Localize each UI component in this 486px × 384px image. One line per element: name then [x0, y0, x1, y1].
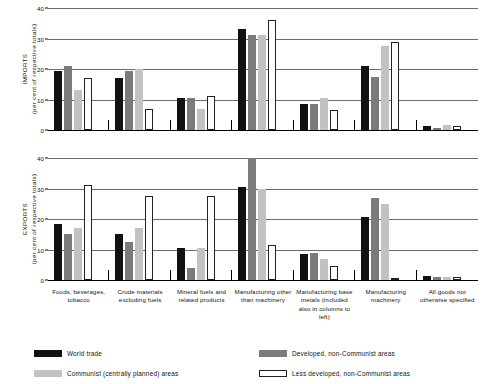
- imports-bar-groups: [48, 8, 478, 130]
- exports-bar: [258, 189, 266, 281]
- exports-y-tick-30: 30: [22, 185, 44, 192]
- imports-bar: [84, 78, 92, 130]
- exports-bar-group: [417, 158, 478, 280]
- legend-label: Less developed, non-Communist areas: [292, 370, 410, 377]
- imports-bar: [310, 104, 318, 130]
- imports-bar: [300, 104, 308, 130]
- exports-bar: [187, 268, 195, 280]
- imports-bar: [197, 109, 205, 130]
- exports-bar-group: [48, 158, 109, 280]
- imports-bar-group: [355, 8, 416, 130]
- x-axis-label-4: Manufacturing base metals (included also…: [294, 288, 355, 322]
- imports-bar-group: [171, 8, 232, 130]
- legend-swatch-icon: [259, 370, 287, 377]
- exports-bar: [330, 266, 338, 280]
- exports-bar: [115, 234, 123, 280]
- imports-bar: [177, 98, 185, 130]
- exports-bar: [310, 253, 318, 280]
- exports-bar: [238, 187, 246, 280]
- imports-bar-group: [417, 8, 478, 130]
- imports-bar: [361, 66, 369, 130]
- exports-bar: [453, 277, 461, 280]
- imports-bar: [381, 46, 389, 130]
- exports-bar: [197, 248, 205, 280]
- exports-plot-area: [48, 158, 478, 281]
- exports-bar: [391, 278, 399, 280]
- exports-bar: [54, 224, 62, 280]
- legend-swatch-icon: [34, 350, 62, 357]
- imports-bar: [64, 66, 72, 130]
- imports-bar: [453, 126, 461, 130]
- legend-label: Communist (centrally planned) areas: [67, 370, 178, 377]
- legend-item: Less developed, non-Communist areas: [259, 370, 474, 377]
- imports-y-tick-10: 10: [22, 96, 44, 103]
- exports-y-tick-20: 20: [22, 216, 44, 223]
- legend-item: Developed, non-Communist areas: [259, 350, 474, 357]
- x-axis-label-1: Crude materials excluding fuels: [109, 288, 170, 322]
- imports-y-tick-0: 0: [22, 127, 44, 134]
- imports-bar: [320, 98, 328, 130]
- x-axis-label-6: All goods not otherwise specified: [417, 288, 478, 322]
- exports-bar-group: [294, 158, 355, 280]
- x-axis-label-2: Mineral fuels and related products: [171, 288, 232, 322]
- exports-bar-group: [171, 158, 232, 280]
- exports-bar: [300, 254, 308, 280]
- imports-bar: [115, 78, 123, 130]
- x-axis-label-3: Manufacturing other than machinery: [232, 288, 293, 322]
- exports-bar: [64, 234, 72, 280]
- chart-legend: World tradeDeveloped, non-Communist area…: [34, 350, 474, 377]
- exports-bar-groups: [48, 158, 478, 280]
- imports-bar: [423, 126, 431, 130]
- legend-label: Developed, non-Communist areas: [292, 350, 395, 357]
- imports-bar: [268, 20, 276, 130]
- legend-item: Communist (centrally planned) areas: [34, 370, 249, 377]
- imports-bar-group: [232, 8, 293, 130]
- imports-panel: IMPORTS (per cent of respective totals) …: [0, 8, 486, 136]
- legend-item: World trade: [34, 350, 249, 357]
- exports-bar: [320, 259, 328, 280]
- exports-bar: [423, 276, 431, 280]
- imports-bar: [145, 109, 153, 130]
- exports-y-tick-0: 0: [22, 277, 44, 284]
- imports-bar: [248, 35, 256, 130]
- x-axis-category-labels: Foods, beverages, tobaccoCrude materials…: [48, 288, 478, 322]
- imports-bar: [433, 128, 441, 130]
- exports-bar: [177, 248, 185, 280]
- imports-bar-group: [109, 8, 170, 130]
- exports-bar: [84, 185, 92, 280]
- exports-bar: [371, 198, 379, 280]
- imports-y-axis: IMPORTS (per cent of respective totals) …: [0, 8, 48, 130]
- grouped-bar-chart-figure: IMPORTS (per cent of respective totals) …: [0, 0, 486, 384]
- exports-y-axis: EXPORTS (per cent of respective totals) …: [0, 158, 48, 280]
- imports-bar-group: [48, 8, 109, 130]
- exports-panel: EXPORTS (per cent of respective totals) …: [0, 158, 486, 286]
- imports-bar: [238, 29, 246, 130]
- imports-y-tick-20: 20: [22, 66, 44, 73]
- legend-label: World trade: [67, 350, 102, 357]
- exports-y-tick-10: 10: [22, 246, 44, 253]
- exports-bar-group: [355, 158, 416, 280]
- imports-bar: [207, 96, 215, 130]
- exports-bar: [207, 196, 215, 280]
- imports-bar: [135, 69, 143, 130]
- x-axis-label-0: Foods, beverages, tobacco: [48, 288, 109, 322]
- imports-bar: [54, 71, 62, 130]
- imports-bar: [443, 125, 451, 130]
- exports-bar: [125, 242, 133, 280]
- imports-y-tick-30: 30: [22, 35, 44, 42]
- exports-bar: [248, 158, 256, 280]
- exports-bar: [433, 277, 441, 280]
- exports-bar: [268, 245, 276, 280]
- exports-bar: [381, 204, 389, 280]
- imports-bar: [258, 35, 266, 130]
- exports-bar: [145, 196, 153, 280]
- exports-bar: [443, 277, 451, 280]
- imports-bar: [330, 110, 338, 130]
- imports-plot-area: [48, 8, 478, 131]
- exports-bar-group: [232, 158, 293, 280]
- legend-swatch-icon: [259, 350, 287, 357]
- imports-bar: [391, 42, 399, 130]
- legend-swatch-icon: [34, 370, 62, 377]
- imports-bar: [125, 71, 133, 130]
- x-axis-label-5: Manufacturing machinery: [355, 288, 416, 322]
